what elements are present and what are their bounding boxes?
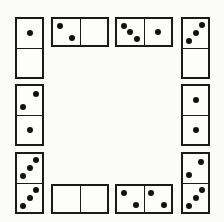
domino-half-0 [17, 48, 42, 78]
pip-icon [57, 23, 63, 29]
domino-3-3[interactable] [15, 152, 44, 214]
domino-half-0 [183, 48, 208, 78]
pip-icon [193, 127, 199, 133]
pip-icon [27, 127, 33, 133]
pip-icon [27, 165, 33, 171]
pip-icon [134, 36, 140, 42]
domino-1-0[interactable] [15, 17, 44, 79]
domino-half-3 [17, 154, 42, 183]
pip-icon [186, 38, 192, 44]
domino-half-0 [53, 186, 80, 212]
pip-icon [33, 91, 39, 97]
domino-half-3 [183, 183, 208, 213]
domino-3-1[interactable] [115, 17, 173, 47]
pip-icon [186, 172, 192, 178]
domino-2-0[interactable] [51, 17, 109, 47]
domino-half-2 [17, 86, 42, 115]
domino-half-1 [144, 19, 172, 45]
domino-half-2 [117, 186, 144, 212]
pip-icon [121, 23, 127, 29]
pip-icon [33, 157, 39, 163]
pip-icon [33, 187, 39, 193]
domino-2-2[interactable] [115, 184, 173, 214]
pip-icon [20, 104, 26, 110]
pip-icon [27, 195, 33, 201]
domino-half-1 [17, 115, 42, 145]
domino-0-0[interactable] [51, 184, 109, 214]
pip-icon [193, 97, 199, 103]
pip-icon [20, 203, 26, 209]
pip-icon [161, 202, 167, 208]
pip-icon [199, 187, 205, 193]
domino-half-3 [183, 19, 208, 48]
pip-icon [186, 203, 192, 209]
pip-icon [20, 173, 26, 179]
pip-icon [148, 190, 154, 196]
domino-half-2 [144, 186, 172, 212]
domino-2-1[interactable] [15, 84, 44, 146]
pip-icon [133, 202, 139, 208]
domino-half-3 [117, 19, 144, 45]
pip-icon [199, 22, 205, 28]
domino-1-1[interactable] [181, 84, 210, 146]
domino-half-1 [183, 115, 208, 145]
domino-half-3 [17, 183, 42, 213]
pip-icon [69, 35, 75, 41]
pip-icon [193, 195, 199, 201]
pip-icon [193, 30, 199, 36]
domino-half-1 [17, 19, 42, 48]
domino-half-0 [80, 19, 108, 45]
domino-half-0 [80, 186, 108, 212]
pip-icon [198, 159, 204, 165]
domino-2-3[interactable] [181, 152, 210, 214]
pip-icon [27, 30, 33, 36]
domino-half-2 [183, 154, 208, 183]
domino-half-1 [183, 86, 208, 115]
domino-3-0[interactable] [181, 17, 210, 79]
pip-icon [127, 29, 133, 35]
pip-icon [121, 190, 127, 196]
pip-icon [155, 29, 161, 35]
domino-half-2 [53, 19, 80, 45]
